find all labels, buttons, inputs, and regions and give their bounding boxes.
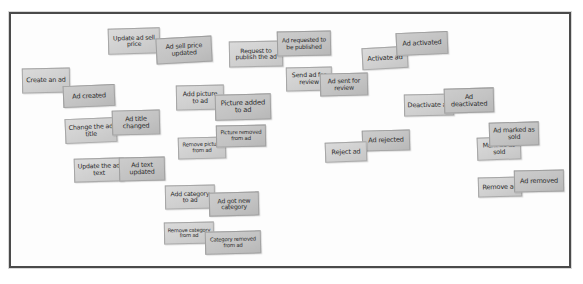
sticky-note-canvas: Update ad sell priceAd sell price update… <box>0 0 583 284</box>
sticky-note-ad-marked-as-sold[interactable]: Ad marked as sold <box>489 121 540 146</box>
sticky-note-label: Ad text updated <box>122 162 162 176</box>
sticky-note-label: Ad sent for review <box>323 77 365 91</box>
sticky-note-ad-activated[interactable]: Ad activated <box>396 31 449 56</box>
sticky-note-label: Request to publish the ad <box>232 47 280 61</box>
sticky-note-label: Update the ad text <box>77 163 121 177</box>
sticky-note-add-category-to-ad[interactable]: Add category to ad <box>165 185 215 210</box>
sticky-note-label: Ad created <box>66 92 112 101</box>
sticky-note-ad-rejected[interactable]: Ad rejected <box>362 129 411 151</box>
sticky-note-label: Add category to ad <box>168 190 212 204</box>
sticky-note-ad-sell-price-updated[interactable]: Ad sell price updated <box>155 36 212 65</box>
sticky-note-reject-ad[interactable]: Reject ad <box>325 141 368 162</box>
sticky-note-category-removed-from-ad[interactable]: Category removed from ad <box>205 230 262 254</box>
sticky-note-ad-got-new-category[interactable]: Ad got new category <box>209 191 260 216</box>
sticky-note-label: Ad activated <box>399 39 445 48</box>
sticky-note-label: Reject ad <box>328 148 364 156</box>
sticky-note-ad-sent-for-review[interactable]: Ad sent for review <box>320 72 369 96</box>
sticky-note-ad-text-updated[interactable]: Ad text updated <box>119 156 166 181</box>
sticky-note-label: Ad got new category <box>212 197 256 211</box>
sticky-note-label: Create an ad <box>25 77 67 85</box>
sticky-note-label: Ad removed <box>517 177 561 185</box>
sticky-note-label: Update ad sell price <box>111 34 157 48</box>
sticky-note-label: Ad rejected <box>365 136 407 144</box>
sticky-note-label: Picture removed from ad <box>219 130 263 142</box>
sticky-note-update-the-ad-text[interactable]: Update the ad text <box>74 157 125 182</box>
sticky-note-update-ad-sell-price[interactable]: Update ad sell price <box>108 27 161 54</box>
sticky-note-label: Ad requested to be published <box>280 37 328 50</box>
sticky-note-label: Ad marked as sold <box>492 127 536 142</box>
event-storming-board: Update ad sell priceAd sell price update… <box>0 0 583 284</box>
sticky-note-ad-removed[interactable]: Ad removed <box>514 170 564 193</box>
sticky-note-ad-title-changed[interactable]: Ad title changed <box>112 109 161 135</box>
sticky-note-request-to-publish-the-ad[interactable]: Request to publish the ad <box>229 41 283 68</box>
sticky-note-change-the-ad-title[interactable]: Change the ad title <box>64 117 117 144</box>
sticky-note-label: Picture added to ad <box>218 99 268 115</box>
sticky-note-ad-created[interactable]: Ad created <box>63 84 116 108</box>
sticky-note-label: Ad deactivated <box>447 93 491 108</box>
sticky-note-label: Category removed from ad <box>208 236 258 248</box>
sticky-note-ad-deactivated[interactable]: Ad deactivated <box>444 87 495 113</box>
sticky-note-picture-removed-from-ad[interactable]: Picture removed from ad <box>216 125 266 148</box>
sticky-note-ad-requested-to-be-published[interactable]: Ad requested to be published <box>277 30 332 56</box>
sticky-note-picture-added-to-ad[interactable]: Picture added to ad <box>215 93 272 120</box>
sticky-note-label: Change the ad title <box>68 123 115 138</box>
sticky-note-label: Ad sell price updated <box>159 42 210 58</box>
sticky-note-label: Ad title changed <box>115 115 157 130</box>
